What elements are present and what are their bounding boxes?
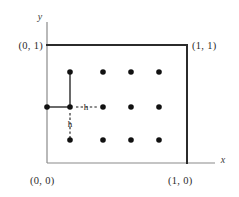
y-axis-label: y [37,11,43,22]
corner-label-top-left: (0, 1) [18,40,43,52]
grid-dot [100,69,106,75]
grid-dots-row-bottom [67,137,162,143]
grid-dot [100,104,106,110]
unit-square-box [47,45,187,163]
spacing-label-vertical: h [68,119,73,129]
grid-dot [156,137,162,143]
grid-dot [128,104,134,110]
grid-dots-row-top [67,69,162,75]
grid-dot [67,69,73,75]
grid-stencil-figure: h h (0, 1) (1, 1) (0, 0) (1, 0) y x [0,0,239,197]
grid-dot [128,69,134,75]
boundary-dot-left-edge [44,104,50,110]
grid-dot [67,104,73,110]
grid-dot [100,137,106,143]
grid-dot [156,104,162,110]
grid-dot [67,137,73,143]
stencil-solid-arms [47,72,70,107]
spacing-label-horizontal: h [84,102,89,112]
figure-canvas: h h (0, 1) (1, 1) (0, 0) (1, 0) y x [0,0,239,197]
corner-label-top-right: (1, 1) [192,40,217,52]
grid-dot [156,69,162,75]
grid-dot [128,137,134,143]
x-axis-label: x [220,154,226,165]
corner-label-bottom-right: (1, 0) [168,175,193,187]
corner-label-bottom-left: (0, 0) [30,175,55,187]
